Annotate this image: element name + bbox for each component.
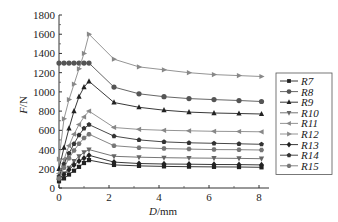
x-tick-label: 0 xyxy=(56,191,62,203)
y-tick-label: 1800 xyxy=(33,9,56,21)
data-point-marker xyxy=(137,64,142,69)
data-point-marker xyxy=(187,140,192,145)
data-point-marker xyxy=(186,147,191,152)
data-point-marker xyxy=(259,142,264,147)
data-point-marker xyxy=(81,114,86,119)
data-point-marker xyxy=(111,99,116,104)
data-point-marker xyxy=(211,156,216,161)
x-axis-title: D/mm xyxy=(148,205,178,217)
data-point-marker xyxy=(161,146,166,151)
series-line xyxy=(59,160,262,181)
data-point-marker xyxy=(287,89,292,94)
series-r7 xyxy=(57,158,264,183)
data-point-marker xyxy=(87,122,92,127)
data-point-marker xyxy=(161,156,166,161)
data-point-marker xyxy=(162,67,167,72)
data-point-marker xyxy=(71,108,76,113)
data-point-marker xyxy=(76,94,81,99)
data-point-marker xyxy=(237,141,242,146)
data-point-marker xyxy=(112,134,117,139)
data-point-marker xyxy=(77,165,81,169)
y-axis-title: F/N xyxy=(17,96,29,115)
x-tick-label: 2 xyxy=(106,191,112,203)
data-point-marker xyxy=(186,128,191,133)
data-point-marker xyxy=(82,126,87,131)
x-axis-title-var: D xyxy=(148,205,157,217)
data-point-marker xyxy=(187,70,192,75)
data-point-marker xyxy=(71,60,76,65)
data-point-marker xyxy=(76,158,81,164)
data-point-marker xyxy=(82,161,86,165)
y-tick-label: 1400 xyxy=(33,47,56,59)
data-point-marker xyxy=(211,129,216,134)
data-point-marker xyxy=(81,155,86,161)
y-tick-label: 1000 xyxy=(33,86,56,98)
data-point-marker xyxy=(67,172,71,176)
data-point-marker xyxy=(161,128,166,133)
data-point-marker xyxy=(186,96,191,101)
data-point-marker xyxy=(111,84,116,89)
y-tick-label: 200 xyxy=(39,163,56,175)
data-point-marker xyxy=(136,127,141,132)
data-point-marker xyxy=(81,60,86,65)
y-tick-label: 800 xyxy=(39,105,56,117)
data-point-marker xyxy=(81,150,86,155)
y-tick-label: 600 xyxy=(39,124,56,136)
data-point-marker xyxy=(259,111,264,116)
data-point-marker xyxy=(72,141,77,146)
y-tick-label: 1600 xyxy=(33,28,56,40)
y-tick-label: 1200 xyxy=(33,67,56,79)
y-axis-title-unit: /N xyxy=(17,96,29,107)
data-point-marker xyxy=(86,78,91,83)
data-point-marker xyxy=(66,60,71,65)
data-point-marker xyxy=(86,60,91,65)
data-point-marker xyxy=(236,98,241,103)
y-tick-label: 0 xyxy=(50,182,56,194)
data-point-marker xyxy=(112,57,117,62)
data-point-marker xyxy=(72,169,76,173)
data-point-marker xyxy=(211,97,216,102)
data-point-marker xyxy=(287,79,291,83)
data-point-marker xyxy=(236,156,241,161)
data-point-marker xyxy=(212,72,217,77)
legend-label: R15 xyxy=(300,160,319,172)
data-point-marker xyxy=(236,129,241,134)
data-point-marker xyxy=(236,147,241,152)
data-point-marker xyxy=(259,74,264,79)
data-point-marker xyxy=(212,141,217,146)
svg-text:F/N: F/N xyxy=(17,96,29,115)
data-point-marker xyxy=(66,125,71,130)
data-point-marker xyxy=(259,157,264,162)
data-point-marker xyxy=(86,109,91,114)
svg-text:D/mm: D/mm xyxy=(148,205,178,217)
legend: R7R8R9R10R11R12R13R14R15 xyxy=(276,73,332,174)
data-point-marker xyxy=(137,137,142,142)
data-point-marker xyxy=(162,139,167,144)
series-layer xyxy=(56,32,265,184)
data-point-marker xyxy=(61,60,66,65)
data-point-marker xyxy=(211,147,216,152)
line-chart: 02004006008001000120014001600180002468 F… xyxy=(0,0,338,222)
y-tick-label: 400 xyxy=(39,144,56,156)
data-point-marker xyxy=(71,148,76,153)
data-point-marker xyxy=(136,91,141,96)
data-point-marker xyxy=(136,145,141,150)
x-tick-label: 4 xyxy=(156,191,162,203)
x-tick-label: 6 xyxy=(206,191,212,203)
data-point-marker xyxy=(259,99,264,104)
data-point-marker xyxy=(111,143,116,148)
data-point-marker xyxy=(186,156,191,161)
data-point-marker xyxy=(259,148,264,153)
data-point-marker xyxy=(136,155,141,160)
data-point-marker xyxy=(237,73,242,78)
data-point-marker xyxy=(258,129,263,134)
data-point-marker xyxy=(87,158,91,162)
x-tick-label: 8 xyxy=(256,191,262,203)
data-point-marker xyxy=(56,60,61,65)
data-point-marker xyxy=(86,152,91,158)
x-axis-title-unit: /mm xyxy=(157,205,178,217)
data-point-marker xyxy=(161,94,166,99)
data-point-marker xyxy=(61,145,66,150)
